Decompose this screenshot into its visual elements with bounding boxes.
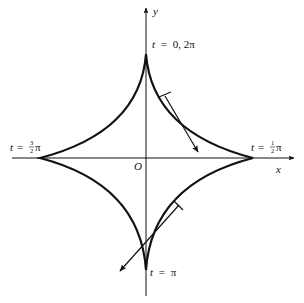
svg-text:t: t [10, 141, 14, 153]
cusp-label-right: t = 1 2 π [251, 139, 282, 154]
svg-text:2: 2 [271, 147, 274, 154]
cusp-label-left: t = 3 2 π [10, 139, 41, 154]
value: 0, 2π [173, 38, 196, 50]
svg-text:3: 3 [30, 139, 33, 146]
tangent-vector-upper-right [165, 96, 198, 152]
svg-text:π: π [35, 141, 41, 153]
svg-text:=: = [17, 141, 23, 153]
x-axis-label: x [275, 163, 281, 175]
param-t: t [152, 38, 156, 50]
cusp-label-bottom: t = π [150, 266, 177, 278]
svg-text:=: = [258, 141, 264, 153]
svg-text:t: t [251, 141, 255, 153]
svg-text:1: 1 [271, 139, 274, 146]
svg-text:π: π [276, 141, 282, 153]
equals: = [161, 38, 167, 50]
cusp-label-top: t = 0, 2π [152, 38, 195, 50]
y-axis-label: y [152, 5, 158, 17]
astroid-diagram: y x O t = 0, 2π t = 1 2 π t = 3 2 π t = … [0, 0, 304, 303]
svg-text:2: 2 [30, 147, 33, 154]
origin-label: O [134, 160, 142, 172]
